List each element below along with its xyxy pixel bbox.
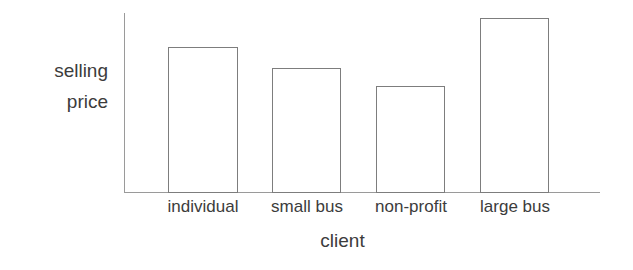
y-axis-title: selling price bbox=[0, 55, 108, 117]
bar-individual bbox=[168, 47, 238, 193]
x-axis-title: client bbox=[0, 229, 633, 253]
x-axis-title-text: client bbox=[320, 230, 364, 251]
bar-chart: individual small bus non-profit large bu… bbox=[0, 0, 633, 270]
x-tick-label-individual: individual bbox=[153, 197, 253, 217]
bar-small-bus bbox=[272, 68, 341, 193]
bar-large-bus bbox=[480, 18, 549, 193]
x-tick-label-small-bus: small bus bbox=[257, 197, 357, 217]
x-tick-label-non-profit: non-profit bbox=[361, 197, 461, 217]
y-axis-title-line-2: price bbox=[0, 86, 108, 117]
y-axis-line bbox=[124, 13, 125, 193]
bar-non-profit bbox=[376, 86, 445, 193]
y-axis-title-line-1: selling bbox=[0, 55, 108, 86]
x-tick-label-large-bus: large bus bbox=[465, 197, 565, 217]
